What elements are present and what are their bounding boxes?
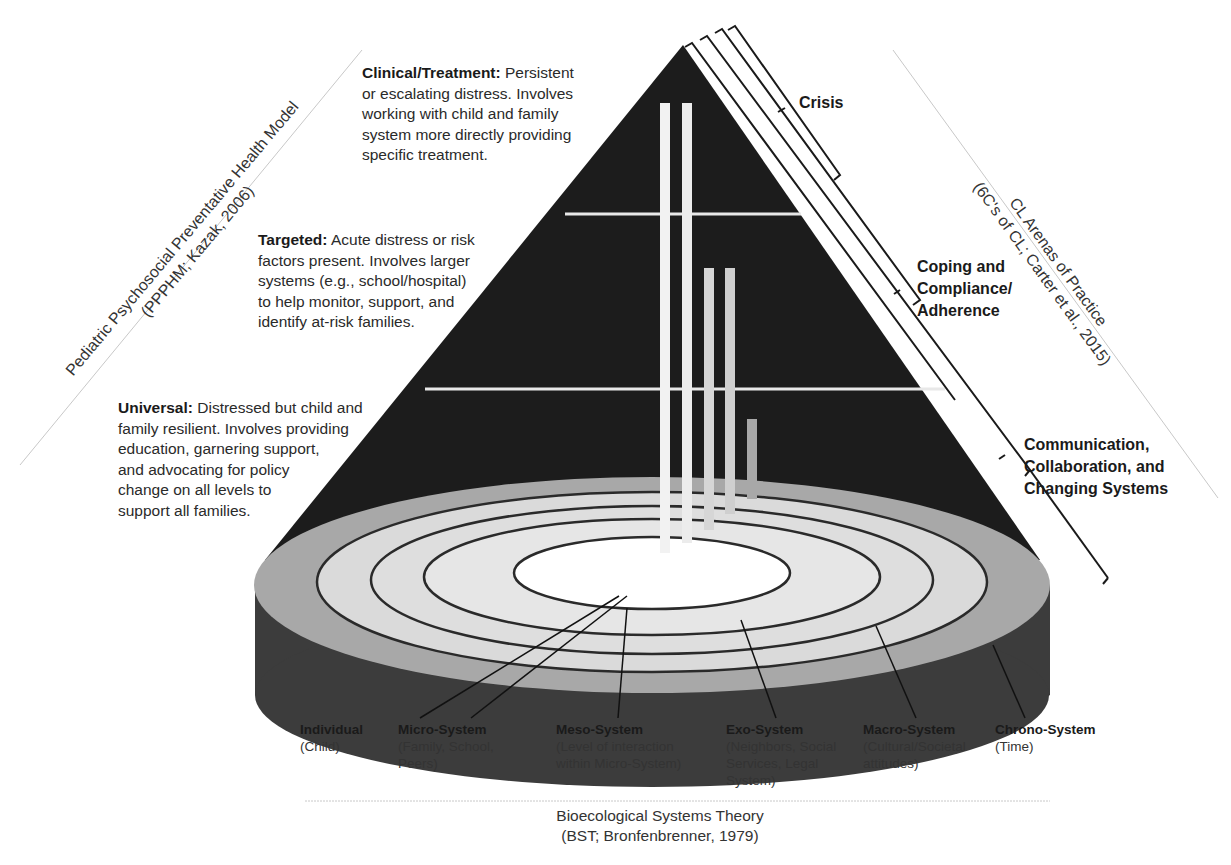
bst-citation: (BST; Bronfenbrenner, 1979) [480,826,840,846]
arena-coping: Coping and Compliance/ Adherence [917,256,1012,322]
bst-axis-label: Bioecological Systems Theory (BST; Bronf… [480,806,840,846]
system-chrono: Chrono-System (Time) [995,721,1096,755]
tier-clinical-name: Clinical/Treatment: [362,64,501,81]
bar-universal [747,419,757,499]
system-individual: Individual (Child) [300,721,363,755]
bar-clinical-2 [682,103,692,543]
system-exo: Exo-System (Neighbors, Social Services, … [726,721,836,789]
arena-crisis: Crisis [799,92,843,114]
tier-clinical: Clinical/Treatment: Persistent or escala… [362,63,574,166]
individual-center [514,537,790,609]
tier-targeted-name: Targeted: [258,231,327,248]
bar-targeted-2 [725,268,735,514]
bar-clinical-1 [660,103,670,553]
system-macro: Macro-System (Cultural/Societal attitude… [863,721,966,772]
system-meso: Meso-System (Level of interaction within… [556,721,681,772]
system-micro: Micro-System (Family, School, Peers) [398,721,494,772]
tier-targeted: Targeted: Acute distress or risk factors… [258,230,475,333]
tier-universal: Universal: Distressed but child and fami… [118,398,363,521]
tier-universal-name: Universal: [118,399,193,416]
arena-communication: Communication, Collaboration, and Changi… [1024,434,1168,500]
bar-targeted-1 [704,268,714,530]
bst-title: Bioecological Systems Theory [480,806,840,826]
diagram: Pediatric Psychosocial Preventative Heal… [0,0,1231,865]
